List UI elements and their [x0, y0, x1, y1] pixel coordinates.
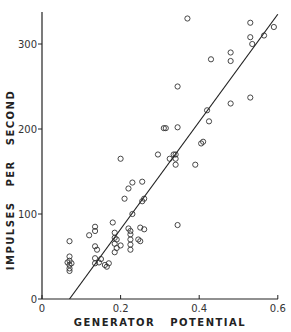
data-point [248, 35, 253, 40]
data-point [173, 162, 178, 167]
data-point [112, 250, 117, 255]
data-point [128, 247, 133, 252]
data-point [110, 220, 115, 225]
data-point [175, 222, 180, 227]
data-point [175, 125, 180, 130]
scatter-chart: 0100200300 00.20.40.6 GENERATOR POTENTIA… [0, 0, 291, 332]
data-points [65, 16, 277, 274]
data-point [208, 57, 213, 62]
data-point [140, 179, 145, 184]
x-axis-ticks: 00.20.40.6 [39, 295, 286, 314]
data-point [87, 233, 92, 238]
data-point [228, 58, 233, 63]
data-point [128, 237, 133, 242]
data-point [271, 24, 276, 29]
data-point [118, 156, 123, 161]
y-tick-label: 200 [18, 124, 37, 135]
data-point [122, 196, 127, 201]
y-tick-label: 0 [31, 294, 37, 305]
x-axis-title: GENERATOR POTENTIAL [74, 317, 246, 328]
y-tick-label: 300 [18, 39, 37, 50]
data-point [92, 256, 97, 261]
data-point [67, 239, 72, 244]
data-point [175, 84, 180, 89]
x-tick-label: 0.4 [191, 303, 207, 314]
data-point [130, 180, 135, 185]
x-tick-label: 0.6 [270, 303, 286, 314]
data-point [155, 152, 160, 157]
data-point [185, 16, 190, 21]
x-tick-label: 0 [39, 303, 45, 314]
x-tick-label: 0.2 [113, 303, 129, 314]
y-axis-title: IMPULSES PER SECOND [5, 90, 16, 271]
data-point [248, 95, 253, 100]
data-point [228, 50, 233, 55]
data-point [228, 101, 233, 106]
data-point [126, 186, 131, 191]
y-axis-ticks: 0100200300 [18, 39, 42, 305]
regression-line [70, 14, 278, 299]
data-point [128, 242, 133, 247]
y-tick-label: 100 [18, 209, 37, 220]
data-point [248, 20, 253, 25]
data-point [193, 162, 198, 167]
data-point [206, 119, 211, 124]
data-point [128, 232, 133, 237]
